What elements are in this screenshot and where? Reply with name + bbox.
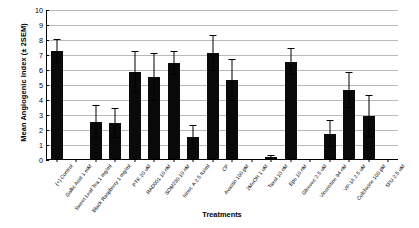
y-axis-tick-label: 2 — [39, 126, 43, 135]
bar — [51, 51, 63, 159]
bar-slot — [67, 10, 87, 159]
bar-slot — [281, 10, 301, 159]
x-axis-title: Treatments — [46, 210, 398, 219]
error-bar — [193, 125, 194, 149]
y-axis-tick-label: 8 — [39, 36, 43, 45]
angiogenic-index-bar-chart: Mean Angiogenic Index (± 2SEM) 012345678… — [0, 0, 419, 228]
y-axis-tick-label: 7 — [39, 51, 43, 60]
y-axis-tick-label: 1 — [39, 141, 43, 150]
y-axis-tick-label: 10 — [35, 6, 43, 15]
error-bar — [173, 51, 174, 75]
bar-slot — [379, 10, 399, 159]
x-axis-tick-label: (+) Control — [53, 163, 73, 187]
bar-slot — [203, 10, 223, 159]
bar-slot — [301, 10, 321, 159]
x-axis-tick-labels: (+) ControlGallic Acid 1 mMSweet Leaf Te… — [46, 161, 398, 207]
bar-slot — [106, 10, 126, 159]
y-axis-tick-label: 5 — [39, 81, 43, 90]
x-axis-tick-label: Taxol 10 nM — [266, 163, 288, 189]
bar-slot — [47, 10, 67, 159]
bar-slot — [223, 10, 243, 159]
bar — [168, 63, 180, 159]
y-axis-tick-label: 3 — [39, 111, 43, 120]
y-axis-tick-label: 4 — [39, 96, 43, 105]
x-axis-tick-label: Black Raspberry 1 mg/ml — [91, 163, 132, 213]
bar-slot — [359, 10, 379, 159]
x-axis-tick-label: Epo 10 nM — [288, 163, 308, 187]
error-bar — [349, 72, 350, 108]
error-bar — [329, 120, 330, 147]
error-bar — [271, 155, 272, 158]
error-bar — [95, 105, 96, 138]
error-bar — [115, 108, 116, 138]
error-bar — [212, 35, 213, 71]
error-bar — [56, 39, 57, 63]
y-axis-tick-label: 0 — [39, 156, 43, 165]
error-bar — [134, 51, 135, 93]
error-bar — [232, 59, 233, 101]
bar-slot — [184, 10, 204, 159]
x-axis-tick-label: PTK 20 uM — [131, 163, 152, 188]
x-axis-tick-label: CP — [221, 163, 230, 172]
plot-area: 012345678910 — [46, 10, 398, 160]
bar-slot — [320, 10, 340, 159]
y-axis-tick-label: 9 — [39, 21, 43, 30]
bar-slot — [164, 10, 184, 159]
x-axis-tick-label: 5FU 2.5 uM — [384, 163, 406, 188]
y-axis-tick-label: 6 — [39, 66, 43, 75]
bar-slot — [125, 10, 145, 159]
error-bar — [368, 95, 369, 137]
error-bar — [290, 48, 291, 75]
bar — [285, 62, 297, 160]
bar-slot — [340, 10, 360, 159]
error-bar — [154, 53, 155, 101]
bar-slot — [262, 10, 282, 159]
bar-slot — [145, 10, 165, 159]
bar-slot — [86, 10, 106, 159]
y-axis-title: Mean Angiogenic Index (± 2SEM) — [19, 8, 28, 158]
bar-series — [47, 10, 398, 159]
bar-slot — [242, 10, 262, 159]
